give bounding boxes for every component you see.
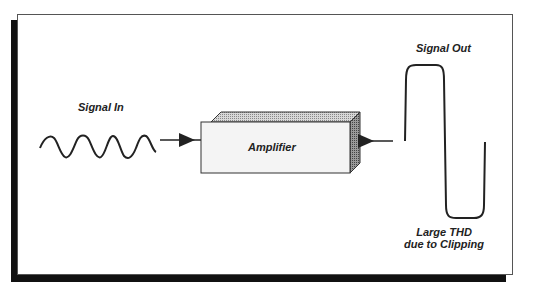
thd-annotation: Large THD due to Clipping (404, 226, 484, 250)
signal-in-label: Signal In (78, 101, 124, 113)
output-clipped-wave (405, 65, 485, 218)
amplifier-label: Amplifier (248, 141, 296, 153)
amplifier-top-face (211, 112, 360, 122)
input-sine-wave (40, 136, 156, 158)
signal-out-label: Signal Out (416, 42, 471, 54)
output-arrow (358, 134, 393, 148)
thd-line-2: due to Clipping (404, 238, 484, 250)
thd-line-1: Large THD (404, 226, 484, 238)
